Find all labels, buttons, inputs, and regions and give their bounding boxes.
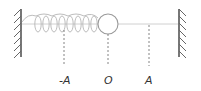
label-neg-amplitude: -A: [59, 74, 71, 87]
right-wall: [179, 9, 186, 58]
label-pos-amplitude: A: [144, 74, 153, 87]
mass-ball: [98, 14, 118, 34]
spring-mass-diagram: -A O A: [0, 0, 201, 91]
spring: [22, 14, 98, 32]
label-origin: O: [104, 74, 113, 87]
left-wall: [14, 9, 21, 58]
